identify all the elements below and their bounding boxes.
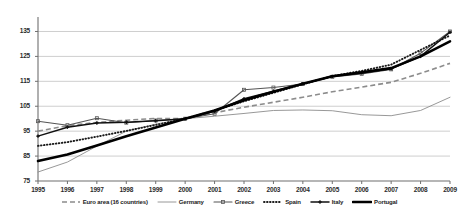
y-axis-tick-label: 75 — [6, 177, 30, 184]
series-line-greece — [38, 31, 450, 125]
legend-item-germany[interactable]: Germany — [157, 198, 204, 206]
x-axis-tick-label: 2005 — [319, 186, 345, 193]
y-axis-tick-label: 95 — [6, 127, 30, 134]
series-line-portugal — [38, 41, 450, 161]
legend-label: Portugal — [374, 199, 397, 205]
y-axis-tick-label: 125 — [6, 52, 30, 59]
series-line-spain — [38, 35, 450, 145]
legend-label: Germany — [179, 199, 204, 205]
x-axis-tick-label: 2009 — [437, 186, 458, 193]
legend-swatch-icon — [61, 198, 81, 206]
legend-item-italy[interactable]: Italy — [310, 198, 343, 206]
x-axis-tick-label: 2001 — [202, 186, 228, 193]
legend-item-portugal[interactable]: Portugal — [352, 198, 397, 206]
chart-legend: Euro area (16 countries)GermanyGreeceSpa… — [0, 198, 458, 206]
legend-item-euro-area-16-countries[interactable]: Euro area (16 countries) — [61, 198, 148, 206]
legend-swatch-icon — [263, 198, 283, 206]
x-axis-tick-label: 1996 — [54, 186, 80, 193]
line-chart: 7585951051151251351995199619971998199920… — [0, 0, 458, 214]
legend-swatch-icon — [310, 198, 330, 206]
x-axis-tick-label: 1997 — [84, 186, 110, 193]
legend-label: Italy — [332, 199, 343, 205]
y-axis-tick-label: 135 — [6, 27, 30, 34]
legend-label: Greece — [235, 199, 254, 205]
x-axis-tick-label: 1999 — [143, 186, 169, 193]
x-axis-tick-label: 2004 — [290, 186, 316, 193]
legend-item-spain[interactable]: Spain — [263, 198, 301, 206]
x-axis-tick-label: 2008 — [408, 186, 434, 193]
legend-swatch-icon — [157, 198, 177, 206]
series-line-germany — [38, 97, 450, 172]
legend-swatch-icon — [213, 198, 233, 206]
x-axis-tick-label: 2000 — [172, 186, 198, 193]
legend-item-greece[interactable]: Greece — [213, 198, 254, 206]
legend-label: Euro area (16 countries) — [83, 199, 148, 205]
x-axis-tick-label: 2006 — [349, 186, 375, 193]
y-axis-tick-label: 105 — [6, 102, 30, 109]
x-axis-tick-label: 2007 — [378, 186, 404, 193]
legend-swatch-icon — [352, 198, 372, 206]
series-line-italy — [38, 32, 450, 136]
x-axis-tick-label: 1995 — [25, 186, 51, 193]
x-axis-tick-label: 1998 — [113, 186, 139, 193]
x-axis-tick-label: 2003 — [260, 186, 286, 193]
y-axis-tick-label: 115 — [6, 77, 30, 84]
x-axis-tick-label: 2002 — [231, 186, 257, 193]
y-axis-tick-label: 85 — [6, 152, 30, 159]
chart-plot-area — [0, 0, 458, 214]
legend-label: Spain — [285, 199, 301, 205]
